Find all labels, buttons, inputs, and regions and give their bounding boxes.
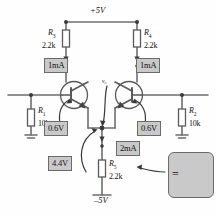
arrow-equivalence: [140, 168, 165, 172]
annotation-vbe-right: 0.6V: [137, 121, 161, 136]
junction-base-left: [29, 93, 33, 97]
transistor-q2-npn: [115, 82, 143, 109]
resistor-r4-ref: R4: [144, 28, 151, 37]
circuit-diagram: = +5V –5V v₀ R3 2.2k R4 2.2k R1 10k R2 1…: [0, 0, 216, 214]
resistor-body-r4: [134, 30, 141, 47]
ground-symbol-left: [25, 135, 37, 138]
junction-tail-current: [100, 144, 104, 148]
annotation-vbe-left: 0.6V: [44, 121, 68, 136]
annotation-collector-current-right: 1mA: [136, 58, 160, 73]
resistor-body-r3: [63, 30, 70, 47]
junction-rail-right: [135, 20, 139, 24]
resistor-r3-value: 2.2k: [42, 41, 55, 50]
resistor-r4-label: R4 2.2k: [144, 28, 157, 50]
resistor-r5-label: R5 2.2k: [109, 159, 122, 181]
transistor-q1-npn: [61, 82, 89, 109]
tail-node-label: v₀: [102, 78, 106, 84]
ground-symbol-right: [176, 135, 188, 138]
junction-rail-left: [64, 20, 68, 24]
resistor-body-r2: [179, 109, 186, 126]
resistor-r2-value: 10k: [189, 119, 200, 128]
negative-rail-label: –5V: [94, 195, 108, 205]
arrow-tail-voltage: [81, 131, 95, 172]
resistor-r2-label: R2 10k: [189, 106, 200, 128]
junction-tail-node: [100, 126, 105, 131]
arrow-current-tail: [99, 137, 104, 143]
resistor-r3-ref: R3: [48, 28, 55, 37]
resistor-r2-ref: R2: [189, 106, 196, 115]
equals-sign: =: [172, 168, 179, 180]
annotation-collector-current-left: 1mA: [44, 58, 68, 73]
resistor-r5-value: 2.2k: [109, 172, 122, 181]
arrow-node-v0: [103, 86, 107, 124]
resistor-body-r5: [99, 160, 106, 177]
annotation-tail-current: 2mA: [116, 141, 140, 156]
junction-base-right: [180, 93, 184, 97]
resistor-r5-ref: R5: [109, 159, 116, 168]
resistor-body-r1: [28, 109, 35, 126]
resistor-r3-label: R3 2.2k: [42, 28, 55, 50]
annotation-tail-voltage: 4.4V: [48, 156, 72, 171]
resistor-r1-ref: R1: [38, 106, 45, 115]
resistor-r4-value: 2.2k: [144, 41, 157, 50]
positive-rail-label: +5V: [90, 5, 105, 15]
